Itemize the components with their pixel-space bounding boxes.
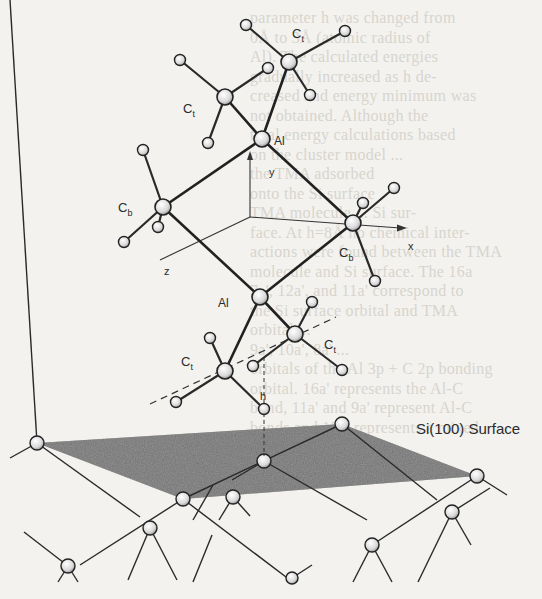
label-ct-top-left: Ct bbox=[183, 101, 195, 119]
label-ct-bottom-left: Ct bbox=[181, 354, 193, 372]
si-atom bbox=[30, 436, 44, 450]
si-atom bbox=[335, 417, 349, 431]
si-atom bbox=[61, 559, 75, 573]
x-axis bbox=[250, 217, 400, 228]
h-atom bbox=[203, 138, 214, 149]
h-atom bbox=[153, 222, 164, 233]
si-atom bbox=[286, 572, 298, 584]
h-atom bbox=[340, 26, 351, 37]
h-atom bbox=[305, 90, 316, 101]
ct-bottom-left-atom bbox=[217, 363, 233, 379]
label-y-axis: y bbox=[269, 166, 275, 178]
si-atom bbox=[365, 538, 379, 552]
label-cb-left: Cb bbox=[118, 200, 132, 218]
label-ct-top-right: Ct bbox=[292, 26, 304, 44]
h-atom bbox=[370, 276, 381, 287]
h-atom bbox=[241, 20, 252, 31]
label-ct-bottom-right: Ct bbox=[324, 337, 336, 355]
tma-si-surface-figure: Ct Ct Al Cb Cb Al Ct Ct y x z h Si(100) … bbox=[0, 0, 542, 599]
coordinate-axes bbox=[160, 151, 407, 260]
label-al-top: Al bbox=[274, 134, 285, 148]
z-axis bbox=[160, 217, 250, 260]
h-atom bbox=[248, 361, 259, 372]
si-atom bbox=[226, 490, 240, 504]
h-atom bbox=[205, 333, 216, 344]
si-atom bbox=[257, 454, 271, 468]
label-cb-right: Cb bbox=[339, 245, 353, 263]
label-al-bottom: Al bbox=[218, 296, 229, 310]
label-z-axis: z bbox=[164, 265, 170, 277]
ct-bottom-right-atom bbox=[287, 326, 303, 342]
h-atom bbox=[119, 237, 130, 248]
figure-labels: Ct Ct Al Cb Cb Al Ct Ct y x z h Si(100) … bbox=[118, 26, 520, 437]
si-atom bbox=[445, 505, 459, 519]
al-bottom-atom bbox=[252, 289, 268, 305]
h-atom bbox=[307, 297, 318, 308]
label-si-surface: Si(100) Surface bbox=[416, 420, 520, 437]
si-atom bbox=[470, 469, 484, 483]
h-atom bbox=[337, 365, 348, 376]
al-top-atom bbox=[254, 131, 270, 147]
h-atom bbox=[263, 63, 274, 74]
label-x-axis: x bbox=[408, 240, 414, 252]
x-arrow-head bbox=[397, 225, 407, 232]
h-atom bbox=[389, 183, 400, 194]
h-atom bbox=[175, 55, 186, 66]
h-atom bbox=[138, 145, 149, 156]
ct-top-right-atom bbox=[281, 54, 297, 70]
h-atom bbox=[259, 404, 270, 415]
h-atom bbox=[358, 198, 369, 209]
label-h-distance: h bbox=[260, 390, 266, 402]
y-arrow-head bbox=[247, 151, 253, 160]
h-atom bbox=[171, 397, 182, 408]
si-atom bbox=[176, 492, 190, 506]
ct-top-left-atom bbox=[217, 89, 233, 105]
cb-left-atom bbox=[155, 199, 171, 215]
si-atom bbox=[143, 521, 157, 535]
cb-right-atom bbox=[345, 215, 361, 231]
